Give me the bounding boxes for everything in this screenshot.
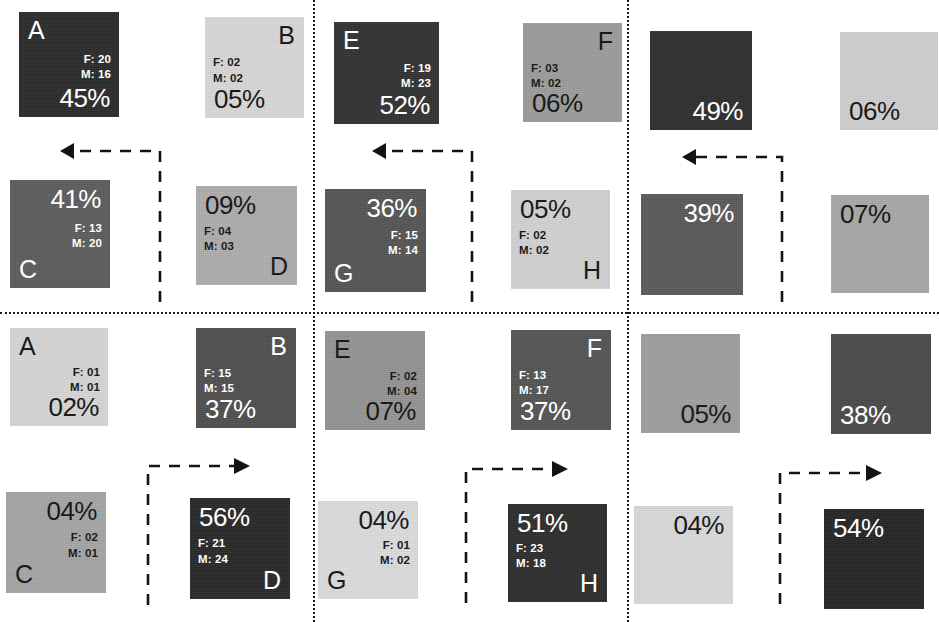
flow-arrow-right-5: [458, 458, 570, 603]
cell-letter-label: F: [598, 29, 613, 54]
heat-cell-tm-H[interactable]: HF: 02M: 0205%: [511, 190, 610, 289]
cell-fm-counts: F: 01M: 02: [380, 538, 410, 568]
cell-letter-label: A: [28, 18, 45, 43]
cell-female-count: F: 01: [70, 365, 100, 380]
heat-cell-bm-E[interactable]: EF: 02M: 0407%: [325, 331, 425, 430]
cell-percent-value: 37%: [520, 398, 571, 424]
panel-divider-vertical-1: [313, 0, 315, 622]
cell-male-count: M: 23: [401, 76, 431, 91]
cell-letter-label: G: [334, 261, 353, 286]
cell-percent-value: 05%: [520, 196, 571, 222]
heat-cell-tl-A[interactable]: AF: 20M: 1645%: [19, 12, 119, 117]
cell-letter-label: G: [327, 568, 346, 593]
heat-cell-tm-E[interactable]: EF: 19M: 2352%: [334, 22, 439, 124]
cell-male-count: M: 02: [380, 553, 410, 568]
flow-arrow-right-6: [772, 462, 884, 604]
cell-fm-counts: F: 03M: 02: [531, 61, 561, 91]
cell-female-count: F: 20: [81, 52, 111, 67]
heat-cell-tr-4[interactable]: 07%: [831, 195, 929, 293]
cell-letter-label: H: [583, 258, 601, 283]
cell-letter-label: A: [19, 334, 36, 359]
flow-arrow-left-3: [682, 146, 790, 302]
cell-percent-value: 09%: [205, 192, 256, 218]
heat-cell-tl-B[interactable]: BF: 02M: 0205%: [205, 17, 304, 118]
flow-arrow-right-4: [140, 455, 252, 605]
cell-percent-value: 37%: [205, 396, 256, 422]
heat-cell-br-2[interactable]: 38%: [831, 334, 931, 434]
cell-percent-value: 45%: [59, 85, 110, 111]
cell-letter-label: B: [278, 23, 295, 48]
heat-cell-br-1[interactable]: 05%: [641, 334, 740, 433]
cell-fm-counts: F: 04M: 03: [204, 224, 234, 254]
cell-female-count: F: 03: [531, 61, 561, 76]
figure-canvas: AF: 20M: 1645%BF: 02M: 0205%CF: 13M: 204…: [0, 0, 939, 622]
cell-female-count: F: 04: [204, 224, 234, 239]
cell-female-count: F: 02: [213, 55, 243, 70]
heat-cell-bl-B[interactable]: BF: 15M: 1537%: [196, 328, 296, 428]
cell-fm-counts: F: 02M: 02: [213, 55, 243, 85]
flow-arrow-left-2: [372, 140, 480, 302]
heat-cell-bl-C[interactable]: CF: 02M: 0104%: [6, 492, 106, 593]
cell-fm-counts: F: 15M: 15: [204, 366, 234, 396]
cell-letter-label: F: [587, 336, 602, 361]
cell-fm-counts: F: 20M: 16: [81, 52, 111, 82]
cell-fm-counts: F: 13M: 17: [519, 368, 549, 398]
cell-percent-value: 02%: [48, 394, 99, 420]
cell-percent-value: 07%: [365, 398, 416, 424]
heat-cell-tr-1[interactable]: 49%: [650, 31, 752, 130]
cell-letter-label: H: [580, 571, 598, 596]
cell-fm-counts: F: 19M: 23: [401, 61, 431, 91]
cell-percent-value: 04%: [673, 512, 724, 538]
panel-divider-vertical-2: [627, 0, 629, 622]
cell-female-count: F: 13: [519, 368, 549, 383]
cell-male-count: M: 03: [204, 239, 234, 254]
cell-fm-counts: F: 02M: 04: [387, 369, 417, 399]
heat-cell-tm-F[interactable]: FF: 03M: 0206%: [523, 23, 622, 122]
cell-female-count: F: 01: [380, 538, 410, 553]
heat-cell-br-3[interactable]: 04%: [634, 506, 733, 604]
cell-male-count: M: 16: [81, 67, 111, 82]
cell-letter-label: C: [15, 562, 33, 587]
cell-fm-counts: F: 02M: 02: [519, 228, 549, 258]
cell-male-count: M: 02: [519, 243, 549, 258]
cell-female-count: F: 02: [387, 369, 417, 384]
heat-cell-bm-F[interactable]: FF: 13M: 1737%: [511, 330, 611, 430]
cell-letter-label: E: [334, 337, 351, 362]
heat-cell-bm-G[interactable]: GF: 01M: 0204%: [318, 501, 418, 599]
cell-letter-label: E: [343, 28, 360, 53]
cell-percent-value: 52%: [379, 92, 430, 118]
cell-percent-value: 04%: [46, 498, 97, 524]
cell-percent-value: 05%: [214, 86, 265, 112]
cell-letter-label: C: [19, 257, 37, 282]
cell-letter-label: D: [263, 568, 281, 593]
heat-cell-tl-D[interactable]: DF: 04M: 0309%: [196, 186, 297, 285]
cell-female-count: F: 02: [519, 228, 549, 243]
cell-female-count: F: 15: [204, 366, 234, 381]
cell-letter-label: B: [270, 334, 287, 359]
cell-percent-value: 49%: [692, 98, 743, 124]
cell-female-count: F: 02: [68, 530, 98, 545]
cell-percent-value: 06%: [532, 90, 583, 116]
heat-cell-tr-2[interactable]: 06%: [840, 32, 938, 130]
cell-percent-value: 04%: [358, 507, 409, 533]
cell-percent-value: 38%: [840, 402, 891, 428]
cell-letter-label: D: [270, 254, 288, 279]
cell-fm-counts: F: 02M: 01: [68, 530, 98, 560]
cell-female-count: F: 19: [401, 61, 431, 76]
cell-percent-value: 07%: [840, 201, 891, 227]
cell-male-count: M: 01: [68, 546, 98, 561]
panel-divider-horizontal-1: [0, 312, 939, 314]
heat-cell-bl-A[interactable]: AF: 01M: 0102%: [10, 328, 108, 426]
cell-percent-value: 05%: [680, 401, 731, 427]
flow-arrow-left-1: [60, 140, 168, 302]
cell-percent-value: 06%: [849, 98, 900, 124]
